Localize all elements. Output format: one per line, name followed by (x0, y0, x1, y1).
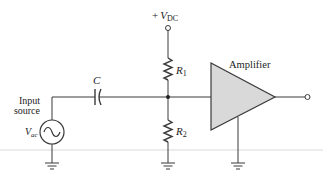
ground-icon (231, 163, 245, 169)
r2-label: R2 (175, 125, 187, 139)
amplifier-icon (211, 63, 275, 130)
ground-icon (45, 163, 59, 169)
ground-icon (161, 163, 175, 169)
junction-dot (166, 95, 170, 99)
capacitor-label: C (93, 74, 101, 86)
vdc-terminal-icon (166, 26, 171, 31)
circuit-diagram: +VDC R1 R2 C Amplifier Input source Vac (0, 0, 323, 185)
input-source-label-line2: source (14, 105, 41, 116)
amplifier-label: Amplifier (229, 59, 271, 70)
vac-label: Vac (25, 126, 39, 139)
vdc-label: +VDC (152, 9, 178, 23)
sine-wave-icon (44, 128, 60, 137)
resistor-r1-icon (164, 58, 172, 80)
resistor-r2-icon (164, 120, 172, 142)
wire-source-cap (52, 97, 95, 120)
r1-label: R1 (175, 64, 187, 78)
output-terminal-icon (305, 95, 310, 100)
